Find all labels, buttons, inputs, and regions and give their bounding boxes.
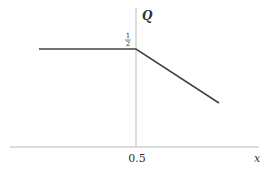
y-axis-label: Q <box>142 9 153 23</box>
x-tick-label: 0.5 <box>128 152 146 165</box>
y-tick-denominator: 2 <box>126 40 130 48</box>
data-line <box>39 49 219 103</box>
chart: Q 1 2 0.5 x <box>0 0 275 171</box>
y-tick-numerator: 1 <box>126 32 130 40</box>
x-axis-label: x <box>254 152 261 165</box>
y-tick-label: 1 2 <box>125 32 131 48</box>
